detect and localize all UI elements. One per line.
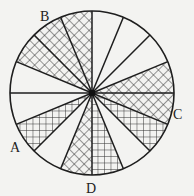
label-b: B [40,9,49,24]
label-c: C [173,107,182,122]
sector-diagram: BADC [0,0,194,196]
label-d: D [86,181,96,196]
label-a: A [10,140,21,155]
center-point [89,90,95,96]
